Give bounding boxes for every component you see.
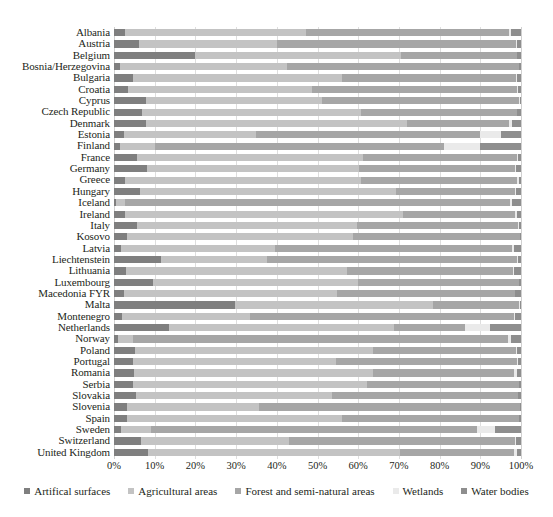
- bar-segment-forest-and-semi-natural-areas: [400, 449, 514, 456]
- stacked-bar[interactable]: [114, 279, 521, 286]
- bar-segment-artifical-surfaces: [114, 426, 121, 433]
- bar-track: [114, 106, 521, 117]
- bar-segment-agricultural-areas: [161, 256, 267, 263]
- stacked-bar[interactable]: [114, 86, 521, 93]
- bar-segment-water-bodies: [517, 40, 521, 47]
- bar-segment-agricultural-areas: [142, 109, 361, 116]
- bar-segment-forest-and-semi-natural-areas: [287, 63, 519, 70]
- bar-segment-artifical-surfaces: [114, 154, 137, 161]
- bar-track: [114, 95, 521, 106]
- bar-segment-forest-and-semi-natural-areas: [322, 97, 519, 104]
- stacked-bar[interactable]: [114, 52, 521, 59]
- bar-segment-agricultural-areas: [121, 245, 275, 252]
- stacked-bar[interactable]: [114, 426, 521, 433]
- stacked-bar[interactable]: [114, 358, 521, 365]
- legend-item[interactable]: Wetlands: [393, 485, 444, 497]
- stacked-bar[interactable]: [114, 392, 521, 399]
- bar-segment-water-bodies: [480, 143, 521, 150]
- bar-track: [114, 27, 521, 38]
- stacked-bar[interactable]: [114, 143, 521, 150]
- bar-segment-artifical-surfaces: [114, 233, 127, 240]
- country-label: Romania: [0, 367, 114, 378]
- stacked-bar[interactable]: [114, 347, 521, 354]
- bar-track: [114, 299, 521, 310]
- x-axis: 0%10%20%30%40%50%60%70%80%90%100%: [114, 459, 521, 477]
- stacked-bar[interactable]: [114, 369, 521, 376]
- bar-segment-forest-and-semi-natural-areas: [342, 74, 516, 81]
- legend-item[interactable]: Artifical surfaces: [24, 485, 110, 497]
- bar-segment-water-bodies: [490, 324, 521, 331]
- stacked-bar[interactable]: [114, 233, 521, 240]
- stacked-bar[interactable]: [114, 154, 521, 161]
- stacked-bar[interactable]: [114, 199, 521, 206]
- stacked-bar[interactable]: [114, 177, 521, 184]
- bar-track: [114, 152, 521, 163]
- bar-segment-agricultural-areas: [126, 267, 347, 274]
- bar-segment-agricultural-areas: [137, 154, 363, 161]
- bar-segment-artifical-surfaces: [114, 86, 128, 93]
- bar-track: [114, 50, 521, 61]
- bar-track: [114, 84, 521, 95]
- bar-track: [114, 435, 521, 446]
- bar-segment-agricultural-areas: [124, 290, 338, 297]
- bar-segment-agricultural-areas: [136, 392, 332, 399]
- bar-segment-water-bodies: [516, 188, 521, 195]
- legend-item[interactable]: Forest and semi-natural areas: [235, 485, 374, 497]
- bar-track: [114, 72, 521, 83]
- bar-segment-forest-and-semi-natural-areas: [407, 120, 509, 127]
- stacked-bar[interactable]: [114, 256, 521, 263]
- bar-track: [114, 163, 521, 174]
- stacked-bar[interactable]: [114, 165, 521, 172]
- bar-segment-agricultural-areas: [133, 358, 337, 365]
- legend-label: Agricultural areas: [138, 485, 217, 497]
- stacked-bar[interactable]: [114, 267, 521, 274]
- stacked-bar[interactable]: [114, 449, 521, 456]
- x-axis-tick-label: 40%: [267, 459, 286, 473]
- stacked-bar[interactable]: [114, 313, 521, 320]
- bar-track: [114, 231, 521, 242]
- stacked-bar[interactable]: [114, 381, 521, 388]
- stacked-bar[interactable]: [114, 222, 521, 229]
- legend-item[interactable]: Agricultural areas: [128, 485, 217, 497]
- stacked-bar[interactable]: [114, 40, 521, 47]
- bar-segment-water-bodies: [516, 437, 521, 444]
- bar-segment-agricultural-areas: [133, 381, 367, 388]
- bar-segment-water-bodies: [520, 403, 521, 410]
- bar-segment-artifical-surfaces: [114, 256, 161, 263]
- stacked-bar[interactable]: [114, 403, 521, 410]
- country-label: Norway: [0, 333, 114, 344]
- stacked-bar[interactable]: [114, 97, 521, 104]
- bar-segment-agricultural-areas: [128, 86, 312, 93]
- bar-segment-artifical-surfaces: [114, 52, 195, 59]
- bar-segment-agricultural-areas: [134, 369, 373, 376]
- bar-segment-water-bodies: [518, 392, 521, 399]
- stacked-bar[interactable]: [114, 437, 521, 444]
- stacked-bar[interactable]: [114, 245, 521, 252]
- stacked-bar[interactable]: [114, 335, 521, 342]
- x-axis-tick-label: 10%: [145, 459, 164, 473]
- bar-segment-water-bodies: [514, 245, 521, 252]
- stacked-bar[interactable]: [114, 211, 521, 218]
- bar-track: [114, 38, 521, 49]
- stacked-bar[interactable]: [114, 290, 521, 297]
- stacked-bar[interactable]: [114, 74, 521, 81]
- legend-item[interactable]: Water bodies: [461, 485, 528, 497]
- bar-track: [114, 333, 521, 344]
- bar-track: [114, 288, 521, 299]
- bar-segment-agricultural-areas: [153, 279, 358, 286]
- chart-row: Norway: [0, 333, 553, 344]
- stacked-bar[interactable]: [114, 131, 521, 138]
- stacked-bar[interactable]: [114, 188, 521, 195]
- stacked-bar[interactable]: [114, 29, 521, 36]
- stacked-bar[interactable]: [114, 120, 521, 127]
- stacked-bar[interactable]: [114, 109, 521, 116]
- stacked-bar[interactable]: [114, 301, 521, 308]
- stacked-bar[interactable]: [114, 63, 521, 70]
- legend-swatch-icon: [461, 488, 467, 494]
- bar-segment-agricultural-areas: [141, 437, 290, 444]
- bar-segment-agricultural-areas: [116, 199, 124, 206]
- chart-row: United Kingdom: [0, 447, 553, 458]
- stacked-bar[interactable]: [114, 415, 521, 422]
- stacked-bar[interactable]: [114, 324, 521, 331]
- bar-track: [114, 197, 521, 208]
